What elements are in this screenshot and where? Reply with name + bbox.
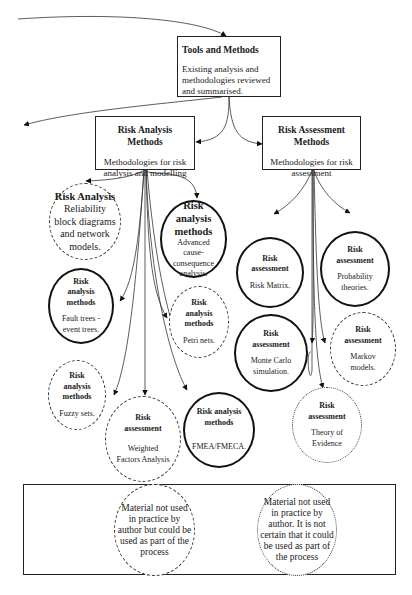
node-risk-matrix: Risk assessment Risk Matrix. <box>236 237 304 308</box>
node-description: Theory of Evidence <box>293 428 361 449</box>
node-description: Weighted Factors Analysis <box>106 444 180 465</box>
node-title: Risk analysis methods <box>50 277 112 309</box>
risk-analysis-methods-title: Risk Analysis Methods <box>99 124 191 148</box>
node-title: Risk analysis methods <box>49 371 105 403</box>
node-title: Risk assessment <box>322 245 388 266</box>
tools-and-methods-description: Existing analysis and methodologies revi… <box>182 64 276 97</box>
node-description: Petri nets. <box>183 336 215 347</box>
risk-assessment-methods-description: Methodologies for risk assessment <box>266 157 357 179</box>
node-description: FMEA/FMECA. <box>192 442 246 453</box>
node-fmea: Risk analysis methods FMEA/FMECA. <box>183 392 255 468</box>
risk-assessment-methods-title: Risk Assessment Methods <box>266 124 357 148</box>
node-fault-trees: Risk analysis methods Fault trees - even… <box>48 268 114 344</box>
node-title: Risk analysis methods <box>185 407 253 428</box>
node-weighted-factors: Risk assessment Weighted Factors Analysi… <box>105 396 181 482</box>
node-theory-of-evidence: Risk assessment Theory of Evidence <box>292 387 362 463</box>
tools-and-methods-box: Tools and Methods Existing analysis and … <box>177 36 281 97</box>
legend-dashed-circle: Material not used in practice by author … <box>114 484 195 576</box>
legend-dashed-text: Material not used in practice by author … <box>115 503 194 558</box>
legend-dotted-text: Material not used in practice by author.… <box>258 497 336 563</box>
node-description: Probability theories. <box>322 272 388 293</box>
node-description: Fault trees - event trees. <box>50 314 112 335</box>
node-description: Reliability block diagrams and network m… <box>50 203 120 253</box>
risk-analysis-methods-description: Methodologies for risk analysis and mode… <box>99 157 191 179</box>
node-title: Risk assessment <box>106 413 180 434</box>
risk-analysis-methods-box: Risk Analysis Methods Methodologies for … <box>95 116 195 170</box>
node-cause-consequence: Risk analysis methods Advanced cause-con… <box>160 200 227 278</box>
node-description: Fuzzy sets. <box>59 409 95 420</box>
node-probability: Risk assessment Probability theories. <box>320 231 390 307</box>
node-title: Risk analysis methods <box>170 298 228 330</box>
node-petri-nets: Risk analysis methods Petri nets. <box>169 286 229 358</box>
node-reliability-block: Risk Analysis Reliability block diagrams… <box>49 183 121 260</box>
node-monte-carlo: Risk assessment Monte Carlo simulation. <box>234 314 308 392</box>
node-title: Risk assessment <box>238 254 302 275</box>
node-title: Risk assessment <box>293 401 361 422</box>
legend-dotted-circle: Material not used in practice by author.… <box>257 484 337 576</box>
node-description: Markov models. <box>331 352 395 373</box>
node-title: Risk assessment <box>236 329 306 350</box>
node-title: Risk assessment <box>331 325 395 346</box>
node-description: Risk Matrix. <box>250 281 290 292</box>
node-title: Risk Analysis <box>55 190 115 203</box>
node-description: Advanced cause-consequence analysis. <box>162 238 225 280</box>
legend-box <box>23 484 396 575</box>
node-description: Monte Carlo simulation. <box>236 356 306 377</box>
risk-assessment-methods-box: Risk Assessment Methods Methodologies fo… <box>262 116 361 170</box>
node-fuzzy-sets: Risk analysis methods Fuzzy sets. <box>48 360 106 430</box>
tools-and-methods-title: Tools and Methods <box>182 44 276 56</box>
node-markov: Risk assessment Markov models. <box>330 312 396 386</box>
node-title: Risk analysis methods <box>162 199 225 238</box>
